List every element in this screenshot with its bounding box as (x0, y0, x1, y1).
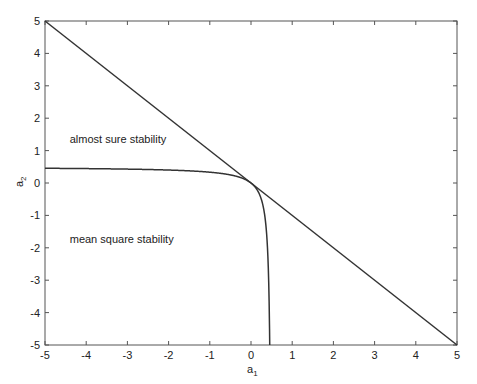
x-tick-label: -4 (81, 349, 91, 361)
stability-region-chart: -5-4-3-2-1012345-5-4-3-2-1012345 almost … (0, 0, 477, 384)
annotation-mean-square: mean square stability (70, 233, 174, 245)
y-tick-label: 3 (34, 80, 40, 92)
annotation-almost-sure: almost sure stability (70, 133, 167, 145)
y-tick-label: 2 (34, 112, 40, 124)
y-axis-label: a2 (13, 176, 28, 187)
x-tick-label: 4 (413, 349, 419, 361)
x-tick-label: -5 (40, 349, 50, 361)
y-tick-label: 0 (34, 177, 40, 189)
x-tick-label: 1 (289, 349, 295, 361)
y-tick-label: -1 (30, 209, 40, 221)
y-tick-label: -3 (30, 274, 40, 286)
x-tick-label: 5 (454, 349, 460, 361)
x-tick-label: 2 (330, 349, 336, 361)
x-tick-label: 0 (248, 349, 254, 361)
y-tick-label: 1 (34, 145, 40, 157)
x-tick-label: -1 (205, 349, 215, 361)
y-tick-label: 4 (34, 47, 40, 59)
x-tick-label: -2 (164, 349, 174, 361)
y-tick-label: 5 (34, 15, 40, 27)
x-axis-label: a1 (247, 363, 258, 378)
x-tick-label: -3 (123, 349, 133, 361)
x-tick-label: 3 (372, 349, 378, 361)
y-tick-label: -2 (30, 242, 40, 254)
y-tick-label: -4 (30, 307, 40, 319)
y-tick-label: -5 (30, 339, 40, 351)
